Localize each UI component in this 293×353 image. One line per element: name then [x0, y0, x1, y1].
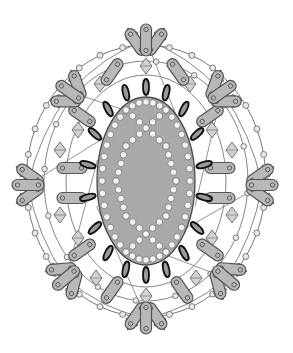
pearl-bead: [129, 253, 136, 260]
pearl-bead: [115, 169, 122, 176]
seed-bead: [133, 298, 139, 304]
pearl-bead: [156, 243, 163, 250]
pearl-bead: [149, 131, 156, 138]
pearl-bead: [165, 204, 172, 211]
pearl-bead: [107, 131, 114, 138]
pearl-bead: [156, 219, 163, 226]
pearl-bead: [123, 143, 130, 150]
seed-bead: [210, 65, 216, 71]
bugle-bead: [141, 24, 152, 56]
drop-bead: [102, 245, 115, 262]
pearl-bead: [186, 165, 193, 172]
seed-bead: [243, 102, 249, 108]
pearl-bead: [115, 186, 122, 193]
pearl-bead: [101, 153, 108, 160]
drop-bead: [178, 245, 191, 262]
seed-bead: [76, 65, 82, 71]
pearl-bead: [143, 99, 150, 106]
pearl-bead: [129, 113, 136, 120]
pearl-bead: [170, 169, 177, 176]
pearl-bead: [113, 178, 120, 185]
drop-bead: [87, 126, 103, 141]
seed-bead: [189, 304, 195, 310]
drop-bead: [143, 267, 149, 283]
seed-bead: [97, 52, 103, 58]
pearl-bead: [136, 131, 143, 138]
pearl-bead: [156, 113, 163, 120]
petal-cluster: [12, 161, 45, 210]
seed-bead: [120, 311, 126, 317]
bicone-bead: [54, 142, 66, 158]
pearl-bead: [112, 234, 119, 241]
pearl-bead: [99, 165, 106, 172]
pearl-bead: [169, 242, 176, 249]
pearl-bead: [156, 137, 163, 144]
bugle-bead: [141, 302, 152, 334]
pearl-bead: [143, 257, 150, 264]
seed-bead: [233, 235, 239, 241]
pearl-bead: [163, 249, 170, 256]
seed-bead: [43, 254, 49, 260]
drop-bead: [121, 261, 130, 278]
seed-bead: [53, 121, 59, 127]
pearl-bead: [182, 214, 189, 221]
pearl-bead: [178, 131, 185, 138]
pearl-bead: [169, 114, 176, 121]
drop-bead: [189, 220, 205, 235]
pearl-bead: [120, 204, 127, 211]
beadwork-illustration: [0, 0, 293, 353]
pearl-bead: [129, 243, 136, 250]
pearl-bead: [136, 225, 143, 232]
pearl-bead: [136, 119, 143, 126]
seed-bead: [261, 151, 267, 157]
pearl-bead: [163, 213, 170, 220]
seed-bead: [25, 151, 31, 157]
seed-bead: [153, 59, 159, 65]
pearl-bead: [123, 107, 130, 114]
drop-bead: [121, 84, 130, 101]
petal-cluster: [122, 301, 171, 334]
pearl-bead: [117, 242, 124, 249]
pearl-bead: [186, 190, 193, 197]
pearl-bead: [103, 142, 110, 149]
pearl-bead: [129, 137, 136, 144]
pearl-bead: [182, 142, 189, 149]
petal-cluster: [245, 161, 278, 210]
pearl-bead: [168, 160, 175, 167]
seed-bead: [189, 52, 195, 58]
bicone-bead: [90, 270, 102, 286]
pearl-bead: [174, 122, 181, 129]
seed-bead: [254, 126, 260, 132]
pearl-bead: [185, 153, 192, 160]
pearl-bead: [99, 178, 106, 185]
pearl-bead: [136, 237, 143, 244]
seed-bead: [46, 213, 52, 219]
pearl-bead: [112, 122, 119, 129]
pearl-bead: [107, 224, 114, 231]
bicone-bead: [190, 270, 202, 286]
pearl-bead: [163, 143, 170, 150]
drop-bead: [189, 126, 205, 141]
pearl-bead: [149, 119, 156, 126]
seed-bead: [43, 102, 49, 108]
bicone-bead: [226, 142, 238, 158]
pearl-bead: [156, 253, 163, 260]
seed-bead: [32, 230, 38, 236]
cabochon-stone: [97, 97, 195, 265]
beading-diagram: [0, 0, 293, 353]
pearl-bead: [118, 160, 125, 167]
pearl-bead: [150, 100, 157, 107]
bicone-bead: [140, 58, 152, 74]
pearl-bead: [103, 214, 110, 221]
pearl-bead: [123, 249, 130, 256]
pearl-bead: [173, 178, 180, 185]
pearl-bead: [117, 114, 124, 121]
pearl-bead: [136, 256, 143, 263]
seed-bead: [241, 144, 247, 150]
drop-bead: [102, 101, 115, 118]
bugle-bead: [246, 180, 278, 191]
pearl-bead: [149, 237, 156, 244]
bicone-bead: [54, 207, 66, 223]
seed-bead: [166, 45, 172, 51]
pearl-bead: [165, 151, 172, 158]
